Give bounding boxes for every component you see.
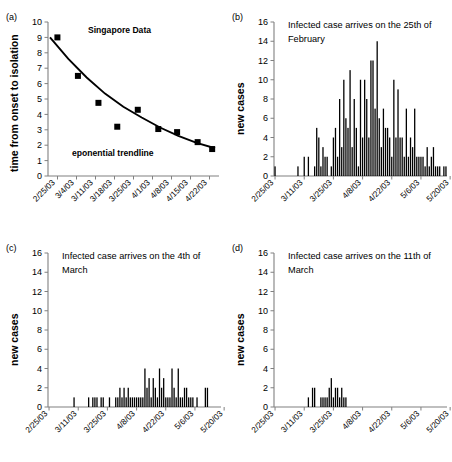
panel-a-trendline xyxy=(50,37,215,148)
panel-a-letter: (a) xyxy=(6,12,17,22)
panel-c-plot: (c)new cases02468101214162/25/033/11/033… xyxy=(0,231,226,462)
panel-b-bar xyxy=(418,157,419,176)
panel-a-ytick-label: 1 xyxy=(37,156,42,166)
panel-b-bar xyxy=(274,166,275,176)
panel-c-title-line1: Infected case arrives on the 4th of xyxy=(62,251,201,261)
panel-a-ytick-label: 7 xyxy=(37,63,42,73)
panel-d-ytick-label: 6 xyxy=(263,344,268,354)
panel-b-bar xyxy=(337,157,338,176)
panel-a-ytick-label: 6 xyxy=(37,79,42,89)
panel-d-xtick-label: 3/11/03 xyxy=(279,409,305,435)
panel-c-bar xyxy=(165,397,166,407)
panel-c-bar xyxy=(101,397,102,407)
panel-b-bar xyxy=(391,157,392,176)
panel-b-bar xyxy=(427,147,428,176)
panel-b-bar xyxy=(383,109,384,176)
panel-b-bar xyxy=(408,157,409,176)
panel-b-bar xyxy=(374,109,375,176)
panel-c-bar xyxy=(192,397,193,407)
panel-c-bar xyxy=(157,397,158,407)
panel-c-bar xyxy=(155,388,156,407)
panel-c-bar xyxy=(161,388,162,407)
panel-d-plot: (d)new cases02468101214162/25/033/11/033… xyxy=(226,231,452,462)
panel-b-bar xyxy=(414,109,415,176)
panel-c-ytick-label: 12 xyxy=(32,287,42,297)
panel-b-bar xyxy=(370,61,371,177)
panel-b-xtick-label: 5/20/03 xyxy=(425,178,451,204)
panel-b-bar xyxy=(343,80,344,176)
panel-b-bar xyxy=(385,128,386,176)
panel-b-xtick-label: 4/22/03 xyxy=(366,178,392,204)
panel-b-title-line1: Infected case arrives on the 25th of xyxy=(288,20,432,30)
panel-d-ytick-label: 14 xyxy=(258,267,268,277)
panel-d-bar xyxy=(345,397,346,407)
panel-a-ylabel: time from onset to isolation xyxy=(8,34,20,172)
panel-a-data-point xyxy=(209,146,215,152)
panel-d-bar xyxy=(343,397,344,407)
panel-b-ytick-label: 2 xyxy=(263,152,268,162)
panel-b-bar xyxy=(352,147,353,176)
panel-c-bar xyxy=(180,397,181,407)
panel-c-bar xyxy=(167,397,168,407)
panel-c-bar xyxy=(132,397,133,407)
panel-c-ytick-label: 4 xyxy=(37,364,42,374)
panel-b-bar xyxy=(393,80,394,176)
panel-d-bar xyxy=(339,397,340,407)
panel-c-bar xyxy=(136,397,137,407)
panel-c-bar xyxy=(173,388,174,407)
panel-b-bar xyxy=(327,157,328,176)
panel-c-bar xyxy=(153,378,154,407)
panel-b-bar xyxy=(331,166,332,176)
panel-d-bar xyxy=(333,397,334,407)
panel-c-bar xyxy=(134,397,135,407)
panel-c-bar xyxy=(128,388,129,407)
panel-b-bar xyxy=(424,166,425,176)
panel-b-bar xyxy=(322,147,323,176)
panel-c-letter: (c) xyxy=(6,243,17,253)
panel-b-bar xyxy=(318,138,319,177)
panel-b-bar xyxy=(354,99,355,176)
panel-b-bar xyxy=(362,138,363,177)
panel-d-xtick-label: 4/8/03 xyxy=(341,409,364,432)
figure-four-panel-sars-isolation: (a)time from onset to isolation012345678… xyxy=(0,0,452,462)
panel-d-ytick-label: 12 xyxy=(258,287,268,297)
panel-b-bar xyxy=(437,166,438,176)
panel-d-ylabel: new cases xyxy=(234,313,246,366)
panel-b-xtick-label: 3/25/03 xyxy=(308,178,334,204)
panel-b-ytick-label: 8 xyxy=(263,94,268,104)
panel-a-ytick-label: 3 xyxy=(37,125,42,135)
panel-b-bar xyxy=(333,138,334,177)
panel-c-ytick-label: 10 xyxy=(32,306,42,316)
panel-c-ytick-label: 2 xyxy=(37,383,42,393)
panel-a-data-point xyxy=(54,34,60,40)
panel-d-title-line2: March xyxy=(288,265,314,275)
panel-b-xtick-label: 5/6/03 xyxy=(399,178,422,201)
panel-c-bar xyxy=(142,397,143,407)
panel-c-bar xyxy=(144,369,145,408)
panel-c-bar xyxy=(205,388,206,407)
panel-b-xtick-label: 2/25/03 xyxy=(250,178,276,204)
panel-b-bar xyxy=(412,147,413,176)
panel-c-xtick-label: 3/25/03 xyxy=(82,409,108,435)
panel-b-bar xyxy=(364,80,365,176)
panel-a-ytick-label: 9 xyxy=(37,33,42,43)
panel-c-bar xyxy=(109,397,110,407)
panel-b-bar xyxy=(431,157,432,176)
panel-b-bar xyxy=(349,70,350,176)
panel-a-xtick-label: 4/1/03 xyxy=(129,178,152,201)
panel-b-bar xyxy=(397,89,398,176)
panel-c-bar xyxy=(121,397,122,407)
panel-b-bar xyxy=(335,128,336,176)
panel-d-bar xyxy=(337,388,338,407)
panel-d-xtick-label: 3/25/03 xyxy=(308,409,334,435)
panel-b-bar xyxy=(402,138,403,177)
panel-b-bar xyxy=(445,166,446,176)
panel-b-bar xyxy=(435,166,436,176)
panel-d-xtick-label: 5/20/03 xyxy=(425,409,451,435)
panel-b-bar xyxy=(399,138,400,177)
panel-b-bar xyxy=(345,118,346,176)
panel-d-xtick-label: 4/22/03 xyxy=(366,409,392,435)
panel-b-bar xyxy=(320,166,321,176)
panel-b-bar xyxy=(356,128,357,176)
panel-b-bar xyxy=(304,157,305,176)
